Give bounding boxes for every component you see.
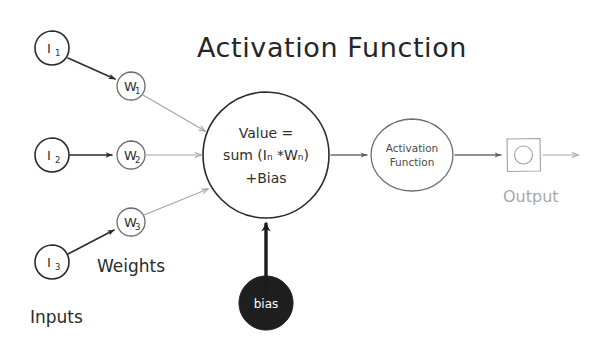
output-node-inner-circle <box>515 146 533 164</box>
summation-formula-line2: sum (Iₙ *Wₙ) <box>223 147 309 163</box>
output-label: Output <box>503 187 559 206</box>
weight-node-w3-subscript: 3 <box>135 222 140 232</box>
connection-i1-to-w1 <box>68 58 115 79</box>
input-node-i1-circle <box>35 31 69 65</box>
input-node-i1-label: I <box>47 41 51 56</box>
connection-w3-to-sum <box>144 189 208 215</box>
summation-formula-line1: Value = <box>239 125 294 141</box>
weight-node-w1-subscript: 1 <box>135 86 140 96</box>
input-node-i1-subscript: 1 <box>55 48 60 58</box>
neural-network-diagram: Activation Function I 1 I 2 I 3 W <box>0 0 602 356</box>
input-node-i2-label: I <box>47 148 51 163</box>
input-node-i3-subscript: 3 <box>55 262 60 272</box>
connection-i3-to-w3 <box>68 230 114 254</box>
output-node[interactable] <box>507 139 541 172</box>
weights-label: Weights <box>97 256 165 276</box>
input-node-i2-circle <box>35 138 69 172</box>
input-node-i3[interactable]: I 3 <box>35 245 69 279</box>
output-node-square <box>507 139 541 172</box>
weight-node-w2-subscript: 2 <box>135 155 140 165</box>
input-node-i3-label: I <box>47 255 51 270</box>
activation-function-line2: Function <box>390 156 435 168</box>
activation-function-line1: Activation <box>386 142 439 154</box>
summation-formula-line3: +Bias <box>245 170 286 186</box>
input-node-i3-circle <box>35 245 69 279</box>
weight-node-w3[interactable]: W 3 <box>117 208 145 236</box>
weight-node-w1[interactable]: W 1 <box>117 72 145 100</box>
connection-w1-to-sum <box>143 95 205 131</box>
activation-function-node-circle <box>371 119 453 191</box>
summation-node[interactable]: Value = sum (Iₙ *Wₙ) +Bias <box>203 92 329 218</box>
input-node-i1[interactable]: I 1 <box>35 31 69 65</box>
activation-function-node[interactable]: Activation Function <box>371 119 453 191</box>
input-node-i2[interactable]: I 2 <box>35 138 69 172</box>
input-node-i2-subscript: 2 <box>55 155 60 165</box>
bias-node-label: bias <box>254 297 279 311</box>
weight-node-w2[interactable]: W 2 <box>117 141 145 169</box>
diagram-title: Activation Function <box>197 32 467 63</box>
inputs-label: Inputs <box>30 307 83 327</box>
diagram-canvas: Activation Function I 1 I 2 I 3 W <box>0 0 602 356</box>
